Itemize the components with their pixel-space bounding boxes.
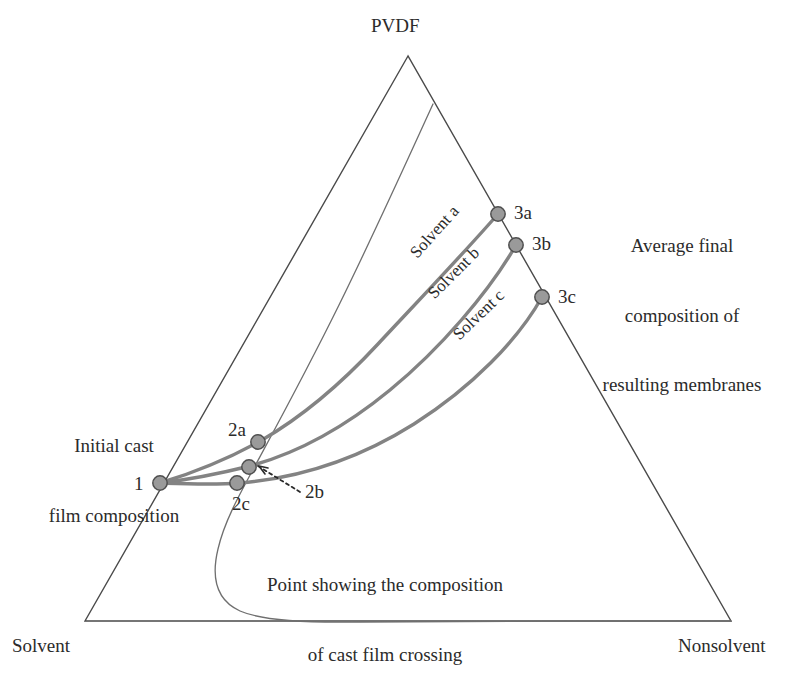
data-point-markers — [153, 207, 549, 490]
vertex-label-pvdf: PVDF — [371, 14, 420, 37]
solvent-b-path — [160, 245, 516, 483]
annotation-average-final-line2: composition of — [576, 304, 788, 327]
vertex-label-solvent: Solvent — [12, 634, 70, 657]
solvent-a-path — [160, 214, 498, 483]
composition-paths — [160, 214, 542, 484]
annotation-average-final-line1: Average final — [576, 234, 788, 257]
marker-point-3c[interactable] — [535, 290, 549, 304]
point-label-3a: 3a — [514, 201, 532, 224]
point-label-2a: 2a — [228, 418, 246, 441]
marker-point-2b[interactable] — [242, 460, 256, 474]
marker-point-3b[interactable] — [509, 238, 523, 252]
annotation-average-final: Average final composition of resulting m… — [576, 188, 788, 443]
point-label-2c: 2c — [232, 492, 250, 515]
annotation-initial-cast-line2: film composition — [24, 504, 204, 527]
marker-point-2a[interactable] — [251, 435, 265, 449]
annotation-average-final-line3: resulting membranes — [576, 373, 788, 396]
annotation-initial-cast: Initial cast film composition — [24, 388, 204, 573]
annotation-binodal-note: Point showing the composition of cast fi… — [228, 527, 542, 673]
vertex-label-nonsolvent: Nonsolvent — [678, 634, 766, 657]
point-label-3c: 3c — [558, 285, 576, 308]
marker-point-3a[interactable] — [491, 207, 505, 221]
annotation-binodal-note-line1: Point showing the composition — [228, 573, 542, 596]
annotation-initial-cast-line1: Initial cast — [24, 434, 204, 457]
point-label-3b: 3b — [532, 232, 551, 255]
annotation-binodal-note-line2: of cast film crossing — [228, 643, 542, 666]
point-label-2b: 2b — [305, 480, 324, 503]
point-label-1: 1 — [134, 472, 144, 495]
ternary-phase-diagram-figure: Ternary phase diagram of PVDF / Solvent … — [0, 0, 794, 673]
marker-point-2c[interactable] — [230, 476, 244, 490]
